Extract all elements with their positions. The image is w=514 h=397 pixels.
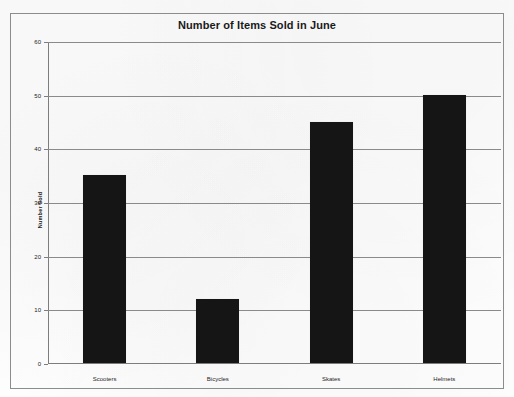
- y-tick-mark: [44, 203, 48, 204]
- y-tick-label: 0: [38, 361, 41, 367]
- x-tick-label-scooters: Scooters: [93, 376, 117, 382]
- y-tick-mark: [44, 257, 48, 258]
- y-tick-label: 20: [34, 254, 41, 260]
- y-tick-mark: [44, 42, 48, 43]
- y-tick-mark: [44, 310, 48, 311]
- y-tick-mark: [44, 149, 48, 150]
- plot-area: 0102030405060 ScootersBicyclesSkatesHelm…: [48, 42, 501, 364]
- chart-title: Number of Items Sold in June: [11, 19, 503, 31]
- y-tick-label: 50: [34, 93, 41, 99]
- y-tick-mark: [44, 96, 48, 97]
- y-tick-label: 60: [34, 39, 41, 45]
- x-tick-label-bicycles: Bicycles: [207, 376, 229, 382]
- y-tick-label: 30: [34, 200, 41, 206]
- bar-scooters[interactable]: [83, 175, 126, 363]
- bar-bicycles[interactable]: [196, 299, 239, 363]
- x-axis-line: [48, 363, 501, 364]
- gridline: [48, 42, 501, 43]
- bar-helmets[interactable]: [423, 95, 466, 363]
- y-axis-title: Number Sold: [37, 192, 43, 228]
- y-tick-mark: [44, 364, 48, 365]
- y-tick-label: 40: [34, 146, 41, 152]
- chart-frame: Number of Items Sold in June Number Sold…: [10, 13, 504, 389]
- y-tick-label: 10: [34, 307, 41, 313]
- x-tick-label-skates: Skates: [322, 376, 340, 382]
- x-tick-label-helmets: Helmets: [433, 376, 455, 382]
- bar-skates[interactable]: [310, 122, 353, 364]
